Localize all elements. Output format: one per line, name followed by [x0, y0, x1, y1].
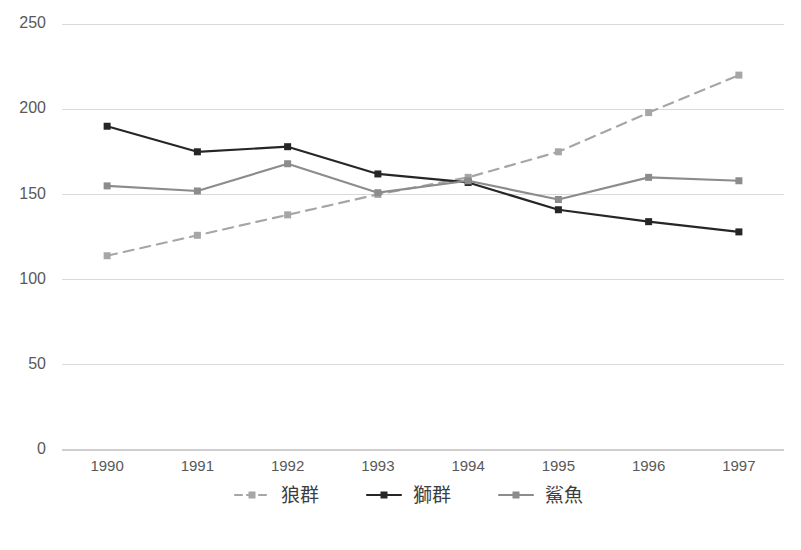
series-line	[107, 75, 739, 256]
chart-canvas: 050100150200250 199019911992199319941995…	[0, 0, 801, 550]
legend-label: 狼群	[281, 484, 319, 506]
data-point-marker	[645, 174, 652, 181]
legend-label: 獅群	[413, 484, 451, 506]
data-point-marker	[284, 211, 291, 218]
data-point-marker	[104, 252, 111, 259]
data-point-marker	[194, 148, 201, 155]
y-axis-tick-labels: 050100150200250	[19, 14, 46, 457]
line-chart: 050100150200250 199019911992199319941995…	[0, 0, 801, 550]
data-point-marker	[555, 196, 562, 203]
data-point-marker	[645, 109, 652, 116]
legend-item[interactable]: 獅群	[367, 484, 451, 506]
legend-item[interactable]: 狼群	[235, 484, 319, 506]
legend-marker-swatch	[513, 492, 520, 499]
data-point-marker	[555, 206, 562, 213]
chart-legend: 狼群獅群鯊魚	[235, 484, 583, 506]
y-axis-tick-label: 50	[28, 355, 46, 372]
y-axis-tick-label: 150	[19, 185, 46, 202]
x-axis-tick-label: 1990	[90, 457, 123, 474]
x-axis-tick-label: 1997	[722, 457, 755, 474]
data-point-marker	[104, 182, 111, 189]
data-point-marker	[555, 148, 562, 155]
data-point-marker	[645, 218, 652, 225]
data-series	[104, 72, 743, 260]
x-axis-tick-label: 1992	[271, 457, 304, 474]
data-point-marker	[374, 189, 381, 196]
data-point-marker	[104, 123, 111, 130]
y-axis-tick-label: 0	[37, 440, 46, 457]
data-point-marker	[465, 177, 472, 184]
x-axis-tick-labels: 19901991199219931994199519961997	[90, 457, 755, 474]
x-axis-tick-label: 1995	[542, 457, 575, 474]
data-series	[104, 160, 743, 203]
legend-label: 鯊魚	[545, 484, 583, 506]
x-axis-tick-label: 1991	[181, 457, 214, 474]
x-axis-tick-label: 1994	[451, 457, 484, 474]
data-point-marker	[735, 72, 742, 79]
data-point-marker	[735, 228, 742, 235]
data-point-marker	[284, 160, 291, 167]
data-series-group	[104, 72, 743, 260]
gridlines	[62, 24, 784, 450]
legend-item[interactable]: 鯊魚	[499, 484, 583, 506]
data-point-marker	[194, 232, 201, 239]
data-point-marker	[194, 187, 201, 194]
x-axis-tick-label: 1993	[361, 457, 394, 474]
data-point-marker	[374, 170, 381, 177]
y-axis-tick-label: 200	[19, 99, 46, 116]
x-axis-tick-label: 1996	[632, 457, 665, 474]
y-axis-tick-label: 250	[19, 14, 46, 31]
legend-marker-swatch	[249, 492, 256, 499]
legend-marker-swatch	[381, 492, 388, 499]
y-axis-tick-label: 100	[19, 270, 46, 287]
data-point-marker	[735, 177, 742, 184]
data-point-marker	[284, 143, 291, 150]
